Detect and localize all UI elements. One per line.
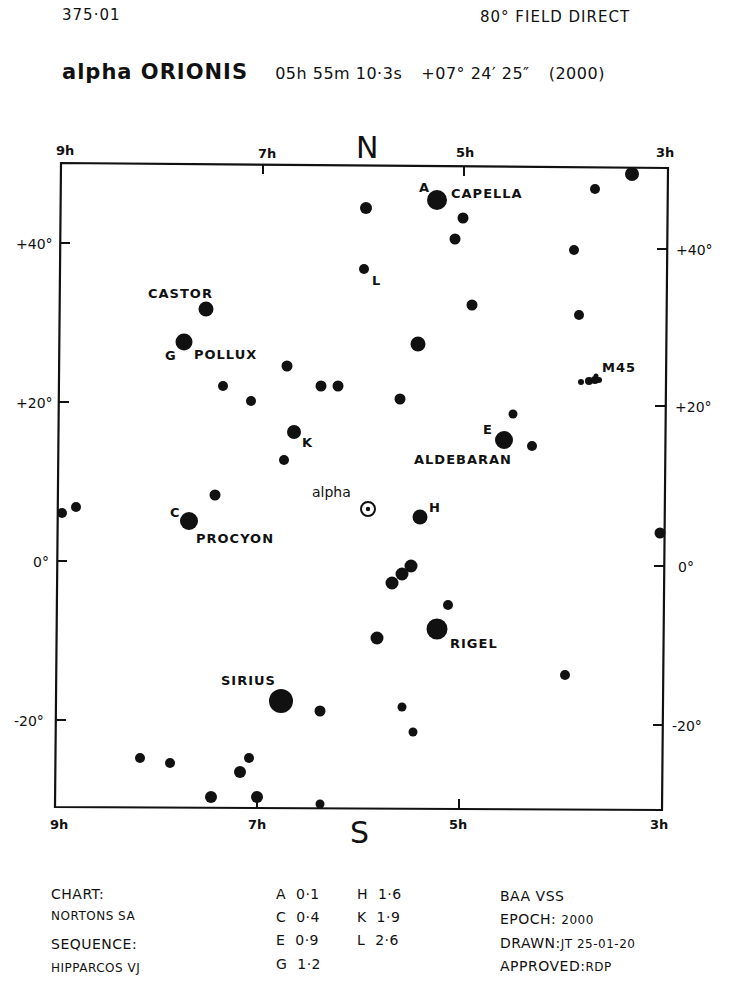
sequence-label: SEQUENCE:: [51, 937, 137, 951]
star-dot: [359, 264, 369, 274]
star-dot: [205, 791, 217, 803]
drawn-value: JT 25-01-20: [561, 937, 636, 951]
label-procyon: PROCYON: [196, 531, 274, 546]
target-dot-icon: [366, 507, 370, 511]
label-G: G: [165, 348, 177, 363]
star-dot: [244, 753, 254, 763]
dec-right-plus40: +40°: [676, 242, 713, 258]
star-dot: [560, 670, 570, 680]
dec-left-plus20: +20°: [16, 395, 53, 411]
star-dot: [360, 202, 372, 214]
star-dot: [450, 234, 461, 245]
ra-top-3h: 3h: [656, 145, 674, 160]
cluster-star-dot: [578, 379, 584, 385]
dec-left-plus40: +40°: [16, 236, 53, 252]
star-dot: [251, 791, 263, 803]
ra-bottom-9h: 9h: [50, 817, 68, 832]
dec-right-minus20: -20°: [672, 718, 702, 734]
star-dot: [625, 167, 639, 181]
approved-line: APPROVED:RDP: [500, 959, 612, 973]
m45-cluster: [578, 374, 602, 386]
star-dot: [386, 577, 399, 590]
ra-bottom-7h: 7h: [248, 817, 266, 832]
star-dot: [411, 337, 426, 352]
star-dot: [574, 310, 584, 320]
dec-right-0: 0°: [678, 559, 694, 575]
star-dot: [71, 502, 81, 512]
stars: [57, 167, 666, 809]
seq-E: E 0·9: [276, 933, 319, 947]
star-dot: [569, 245, 579, 255]
variable-star-alpha: [361, 502, 375, 516]
label-sirius: SIRIUS: [221, 673, 276, 688]
ra-bottom-3h: 3h: [650, 817, 668, 832]
star-dot: [315, 706, 326, 717]
epoch-label: EPOCH:: [500, 911, 556, 927]
seq-K: K 1·9: [357, 910, 400, 924]
approved-label: APPROVED:: [500, 958, 585, 974]
seq-G: G 1·2: [276, 957, 321, 971]
chart-source-value: NORTONS SA: [51, 910, 135, 922]
ra-bottom-5h: 5h: [449, 817, 467, 832]
label-rigel: RIGEL: [450, 636, 498, 651]
ra-top-9h: 9h: [56, 143, 74, 158]
star-dot: [316, 800, 325, 809]
dec-left-0: 0°: [33, 554, 49, 570]
dec-right-plus20: +20°: [675, 399, 712, 415]
label-aldebaran: ALDEBARAN: [414, 452, 512, 467]
star-dot: [316, 381, 327, 392]
star-dot: [246, 396, 256, 406]
label-capella: CAPELLA: [451, 186, 523, 201]
star-dot: [135, 753, 145, 763]
seq-L: L 2·6: [357, 933, 399, 947]
seq-C: C 0·4: [276, 910, 320, 924]
star-dot: [413, 510, 428, 525]
star-dot: [333, 381, 344, 392]
label-C: C: [170, 505, 181, 520]
star-dot: [467, 300, 478, 311]
star-dot: [282, 361, 293, 372]
star-dot: [199, 302, 214, 317]
star-dot: [234, 766, 246, 778]
star-dot: [495, 431, 513, 449]
star-chart: N S 9h 7h 5h 3h 9h 7h 5h 3h +40° +20° 0°…: [0, 0, 734, 870]
chart-frame: [55, 163, 668, 810]
star-dot: [443, 600, 453, 610]
epoch-line: EPOCH: 2000: [500, 912, 594, 926]
star-dot: [218, 381, 228, 391]
drawn-label: DRAWN:: [500, 935, 561, 951]
star-dot: [590, 184, 600, 194]
star-dot: [395, 394, 406, 405]
star-dot: [269, 689, 293, 713]
label-m45: M45: [602, 360, 636, 375]
label-alpha: alpha: [312, 484, 351, 500]
sequence-value: HIPPARCOS VJ: [51, 962, 140, 974]
star-dot: [509, 410, 518, 419]
organization: BAA VSS: [500, 889, 564, 903]
label-pollux: POLLUX: [194, 347, 257, 362]
star-dot: [409, 728, 418, 737]
cluster-star-dot: [596, 377, 602, 383]
star-dot: [527, 441, 537, 451]
star-dot: [458, 213, 469, 224]
label-H: H: [429, 500, 441, 515]
star-dot: [396, 568, 409, 581]
label-L: L: [372, 273, 381, 288]
star-dot: [279, 455, 289, 465]
approved-value: RDP: [585, 960, 611, 974]
ra-top-5h: 5h: [456, 145, 474, 160]
star-dot: [57, 508, 67, 518]
label-castor: CASTOR: [148, 286, 213, 301]
label-A: A: [419, 180, 430, 195]
star-dot: [427, 619, 448, 640]
star-dot: [655, 528, 666, 539]
ra-top-7h: 7h: [258, 146, 276, 161]
label-E: E: [483, 422, 493, 437]
star-dot: [180, 512, 198, 530]
star-dot: [371, 632, 384, 645]
star-dot: [398, 703, 407, 712]
star-dot: [165, 758, 175, 768]
ra-ticks: [56, 164, 667, 809]
seq-A: A 0·1: [276, 887, 320, 901]
dec-left-minus20: -20°: [14, 713, 44, 729]
